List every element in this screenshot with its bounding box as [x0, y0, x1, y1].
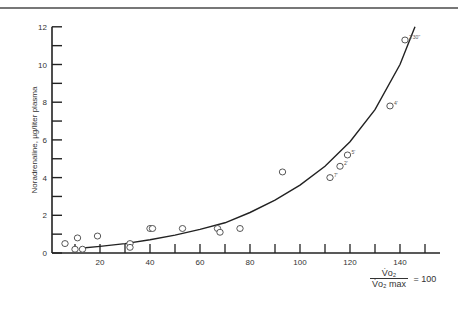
data-point: [327, 175, 333, 181]
point-label: 5': [352, 149, 356, 155]
data-point: [127, 244, 133, 250]
data-point: [387, 103, 393, 109]
data-point: [337, 163, 343, 169]
data-point: [74, 235, 80, 241]
x-axis-denominator: V̇o₂ max: [370, 278, 408, 289]
fitted-curve: [80, 27, 415, 249]
data-point: [72, 246, 78, 252]
data-point: [94, 233, 100, 239]
x-tick-label: 140: [393, 258, 407, 267]
scatter-chart: 02468101220406080100120140Noradrenaline,…: [0, 0, 464, 311]
y-tick-label: 2: [43, 211, 48, 220]
y-tick-label: 10: [38, 61, 47, 70]
x-tick-label: 60: [196, 258, 205, 267]
data-point: [402, 37, 408, 43]
data-point: [237, 225, 243, 231]
x-tick-label: 120: [343, 258, 357, 267]
y-tick-label: 6: [43, 136, 48, 145]
data-point: [279, 169, 285, 175]
x-axis-numerator: V̇o₂: [370, 268, 408, 278]
x-axis-equals: = 100: [414, 274, 437, 284]
point-label: 2'30'': [409, 34, 420, 40]
x-tick-label: 100: [293, 258, 307, 267]
data-point: [217, 229, 223, 235]
data-point: [62, 241, 68, 247]
y-tick-label: 0: [43, 249, 48, 258]
point-label: 7': [334, 172, 338, 178]
point-label: 4': [394, 100, 398, 106]
data-point: [344, 152, 350, 158]
y-axis-label: Noradrenaline, µg/liter plasma: [30, 86, 39, 193]
data-point: [79, 246, 85, 252]
point-label: 2': [344, 160, 348, 166]
x-tick-label: 20: [96, 258, 105, 267]
y-tick-label: 4: [43, 174, 48, 183]
x-axis-fraction: V̇o₂ V̇o₂ max: [370, 268, 408, 289]
y-tick-label: 8: [43, 98, 48, 107]
x-tick-label: 40: [146, 258, 155, 267]
data-point: [149, 225, 155, 231]
data-point: [179, 225, 185, 231]
y-tick-label: 12: [38, 23, 47, 32]
x-tick-label: 80: [246, 258, 255, 267]
x-axis-label: V̇o₂ V̇o₂ max = 100: [370, 268, 460, 289]
